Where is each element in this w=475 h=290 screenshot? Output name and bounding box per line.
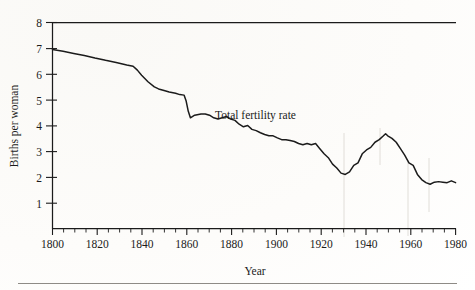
y-tick-label: 8 [36,17,42,29]
scan-artifact-streaks [344,128,429,237]
y-tick-label: 3 [36,146,42,158]
x-tick-label: 1880 [220,238,243,250]
x-tick-label: 1820 [86,238,109,250]
y-tick-label: 7 [36,43,42,55]
x-tick-label: 1920 [310,238,333,250]
axis-lines [52,22,456,229]
figure-container: 8 7 6 5 4 3 2 1 [0,0,475,290]
x-tick-label: 1960 [399,238,422,250]
series-annotation-label: Total fertility rate [215,109,296,122]
y-axis-tick-labels: 8 7 6 5 4 3 2 1 [36,17,42,210]
chart-canvas: 8 7 6 5 4 3 2 1 [0,0,475,290]
y-tick-label: 6 [36,69,42,81]
y-axis-title: Births per woman [8,85,21,168]
x-tick-label: 1900 [265,238,288,250]
x-tick-label: 1980 [444,238,467,250]
y-tick-label: 5 [36,95,42,107]
x-tick-label: 1940 [355,238,378,250]
y-tick-label: 4 [36,120,42,132]
x-tick-label: 1800 [41,238,64,250]
x-axis-title: Year [244,265,265,277]
x-tick-label: 1860 [175,238,198,250]
y-tick-label: 2 [36,172,42,184]
x-tick-label: 1840 [131,238,154,250]
y-tick-label: 1 [36,198,42,210]
x-axis-tick-labels: 1800 1820 1840 1860 1880 1900 1920 1940 … [41,238,467,250]
